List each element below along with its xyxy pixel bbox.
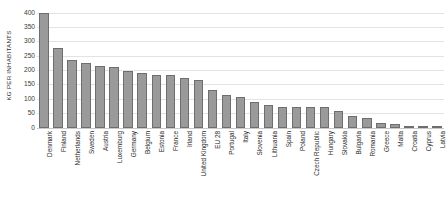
y-axis-tick-label: 0: [31, 124, 35, 131]
category-slot: Portugal: [219, 129, 233, 211]
bar-slot: [430, 13, 444, 128]
bar[interactable]: [109, 67, 119, 128]
bar[interactable]: [348, 116, 358, 128]
bar[interactable]: [250, 102, 260, 128]
bar-slot: [388, 13, 402, 128]
bar[interactable]: [362, 118, 372, 128]
category-slot: Greece: [374, 129, 388, 211]
bar[interactable]: [194, 80, 204, 128]
bar[interactable]: [123, 71, 133, 127]
bar-slot: [93, 13, 107, 128]
bar-slot: [107, 13, 121, 128]
bar-series: [37, 13, 444, 128]
category-slot: Czech Republic: [304, 129, 318, 211]
bar[interactable]: [81, 63, 91, 127]
bar-slot: [233, 13, 247, 128]
bar[interactable]: [278, 107, 288, 128]
category-slot: Luxemburg: [107, 129, 121, 211]
category-slot: Romania: [360, 129, 374, 211]
category-slot: Croatia: [402, 129, 416, 211]
x-axis-category-labels: DenmarkFinlandNetherlandsSwedenAustriaLu…: [37, 129, 444, 211]
category-slot: Irland: [177, 129, 191, 211]
y-axis-tick-labels: 400350300250200150100500: [16, 8, 36, 130]
category-slot: Lithuania: [262, 129, 276, 211]
category-slot: EU 28: [205, 129, 219, 211]
bar-slot: [37, 13, 51, 128]
category-slot: Italy: [233, 129, 247, 211]
y-axis-tick-label: 350: [24, 24, 35, 31]
bar-slot: [65, 13, 79, 128]
y-axis-tick-label: 100: [24, 95, 35, 102]
category-slot: Latvia: [430, 129, 444, 211]
bar-slot: [191, 13, 205, 128]
y-axis-tick-label: 150: [24, 81, 35, 88]
category-slot: Cyprus: [416, 129, 430, 211]
bar[interactable]: [390, 124, 400, 127]
category-slot: Finland: [51, 129, 65, 211]
bar-chart: KG PER INHABITANTS 400350300250200150100…: [0, 0, 448, 213]
bar-slot: [416, 13, 430, 128]
y-axis-tick-label: 200: [24, 67, 35, 74]
bar[interactable]: [67, 60, 77, 128]
bar[interactable]: [320, 107, 330, 127]
category-slot: Spain: [276, 129, 290, 211]
bar[interactable]: [39, 13, 49, 128]
y-axis-tick-label: 50: [28, 110, 35, 117]
bar[interactable]: [432, 126, 442, 128]
category-slot: Bulgaria: [346, 129, 360, 211]
bar[interactable]: [137, 73, 147, 127]
bar[interactable]: [152, 75, 162, 128]
y-axis-tick-label: 400: [24, 9, 35, 16]
category-slot: Sweden: [79, 129, 93, 211]
bar-slot: [332, 13, 346, 128]
category-slot: Slovenia: [247, 129, 261, 211]
bar-slot: [304, 13, 318, 128]
category-slot: Slovakia: [332, 129, 346, 211]
bar[interactable]: [264, 105, 274, 127]
y-axis-title-label: KG PER INHABITANTS: [5, 30, 12, 100]
bar-slot: [135, 13, 149, 128]
bar[interactable]: [208, 90, 218, 127]
bar[interactable]: [292, 107, 302, 127]
bar-slot: [163, 13, 177, 128]
bar-slot: [276, 13, 290, 128]
category-slot: Poland: [290, 129, 304, 211]
category-slot: Denmark: [37, 129, 51, 211]
bar[interactable]: [166, 75, 176, 128]
bar[interactable]: [180, 78, 190, 127]
category-slot: Germany: [121, 129, 135, 211]
bar-slot: [149, 13, 163, 128]
bar-slot: [121, 13, 135, 128]
bar[interactable]: [95, 66, 105, 127]
category-slot: Belgium: [135, 129, 149, 211]
bar[interactable]: [418, 126, 428, 128]
bar-slot: [219, 13, 233, 128]
bar-slot: [79, 13, 93, 128]
y-axis-tick-label: 300: [24, 38, 35, 45]
bar[interactable]: [376, 123, 386, 127]
category-slot: France: [163, 129, 177, 211]
bar-slot: [346, 13, 360, 128]
category-slot: Netherlands: [65, 129, 79, 211]
bar[interactable]: [404, 126, 414, 128]
bar-slot: [262, 13, 276, 128]
bar-slot: [51, 13, 65, 128]
bar-slot: [360, 13, 374, 128]
bar[interactable]: [306, 107, 316, 127]
bar-slot: [290, 13, 304, 128]
bar-slot: [177, 13, 191, 128]
bar[interactable]: [53, 48, 63, 128]
bar-slot: [318, 13, 332, 128]
category-slot: Malta: [388, 129, 402, 211]
bar-slot: [402, 13, 416, 128]
x-axis-tick-label: Latvia: [440, 131, 446, 148]
bar[interactable]: [222, 95, 232, 127]
bar-slot: [205, 13, 219, 128]
bar[interactable]: [236, 97, 246, 127]
plot-area: [37, 13, 444, 128]
category-slot: Hungary: [318, 129, 332, 211]
bar-slot: [374, 13, 388, 128]
y-axis-tick-label: 250: [24, 52, 35, 59]
bar[interactable]: [334, 111, 344, 127]
category-slot: United Kingdom: [191, 129, 205, 211]
